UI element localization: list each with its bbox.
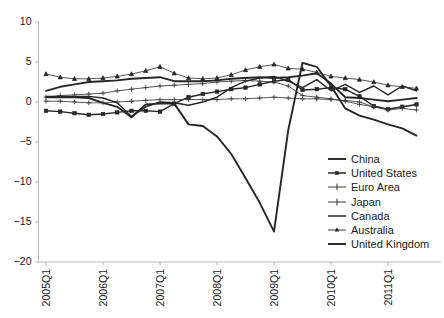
data-point-marker — [257, 96, 262, 101]
y-tick-label: −10 — [14, 175, 32, 187]
x-tick-label: 2010Q1 — [325, 269, 337, 307]
data-point-marker — [115, 88, 120, 93]
data-point-marker — [101, 91, 106, 96]
data-point-marker — [229, 96, 234, 101]
data-point-marker — [244, 86, 247, 89]
data-point-marker — [59, 110, 62, 113]
legend-item-china[interactable]: China — [327, 152, 439, 166]
legend-label: Euro Area — [351, 180, 400, 194]
data-point-marker — [101, 112, 104, 115]
data-point-marker — [343, 98, 348, 103]
x-axis-ticks — [46, 262, 388, 266]
data-point-marker — [158, 97, 163, 102]
data-point-marker — [230, 88, 233, 91]
data-point-marker — [87, 113, 90, 116]
legend-label: Japan — [351, 195, 381, 209]
legend-marker-triangle-icon — [327, 223, 347, 237]
y-axis-ticks: 1050−5−10−15−20 — [14, 15, 39, 267]
data-point-marker — [358, 95, 361, 98]
data-point-marker — [173, 102, 176, 105]
data-point-marker — [116, 111, 119, 114]
legend-marker-line-icon — [327, 152, 347, 166]
data-point-marker — [58, 99, 63, 104]
y-tick-label: −15 — [14, 215, 32, 227]
legend-marker-cross-icon — [327, 180, 347, 194]
data-point-marker — [172, 97, 177, 102]
y-tick-label: 0 — [26, 95, 32, 107]
data-point-marker — [130, 109, 133, 112]
data-point-marker — [243, 96, 248, 101]
data-point-marker — [158, 65, 162, 69]
legend-label: United States — [351, 166, 417, 180]
x-tick-label: 2006Q1 — [97, 269, 109, 307]
data-point-marker — [158, 84, 163, 89]
legend-marker-plus-icon — [327, 195, 347, 209]
data-point-marker — [201, 92, 204, 95]
data-point-marker — [129, 99, 134, 104]
y-tick-label: 5 — [26, 55, 32, 67]
data-point-marker — [287, 78, 290, 81]
data-point-marker — [315, 88, 318, 91]
data-point-marker — [158, 110, 161, 113]
data-point-marker — [143, 85, 148, 90]
legend-label: Canada — [351, 209, 390, 223]
chart-legend: ChinaUnited StatesEuro AreaJapanCanadaAu… — [327, 152, 439, 251]
data-point-marker — [73, 112, 76, 115]
data-point-marker — [44, 99, 49, 104]
legend-label: Australia — [351, 223, 394, 237]
data-point-marker — [329, 86, 332, 89]
chart-container: 1050−5−10−15−20 2005Q12006Q12007Q12008Q1… — [0, 0, 444, 318]
x-tick-label: 2005Q1 — [40, 269, 52, 307]
data-point-marker — [186, 82, 191, 87]
data-point-marker — [172, 83, 177, 88]
legend-item-australia[interactable]: Australia — [327, 223, 439, 237]
data-point-marker — [143, 98, 148, 103]
legend-item-united-kingdom[interactable]: United Kingdom — [327, 237, 439, 251]
data-point-marker — [44, 109, 47, 112]
data-point-marker — [86, 100, 91, 105]
legend-marker-line-icon — [327, 209, 347, 223]
y-tick-label: 10 — [20, 15, 32, 27]
data-point-marker — [286, 96, 291, 101]
data-point-marker — [286, 84, 291, 89]
data-point-marker — [272, 62, 276, 66]
data-point-marker — [272, 95, 277, 100]
y-tick-label: −5 — [20, 135, 32, 147]
data-point-marker — [44, 72, 48, 76]
legend-item-euro-area[interactable]: Euro Area — [327, 180, 439, 194]
data-point-marker — [101, 100, 106, 105]
legend-item-japan[interactable]: Japan — [327, 195, 439, 209]
x-tick-label: 2007Q1 — [154, 269, 166, 307]
data-point-marker — [301, 88, 304, 91]
data-point-marker — [129, 87, 134, 92]
x-tick-label: 2008Q1 — [211, 269, 223, 307]
y-tick-label: −20 — [14, 255, 32, 267]
x-tick-label: 2011Q1 — [382, 269, 394, 306]
data-point-marker — [215, 90, 218, 93]
legend-label: China — [351, 152, 380, 166]
data-point-marker — [414, 108, 419, 113]
data-point-marker — [344, 88, 347, 91]
chart-series-markers — [44, 62, 419, 116]
legend-item-united-states[interactable]: United States — [327, 166, 439, 180]
legend-label: United Kingdom — [351, 237, 429, 251]
x-tick-label: 2009Q1 — [268, 269, 280, 307]
legend-item-canada[interactable]: Canada — [327, 209, 439, 223]
x-axis-tick-labels: 2005Q12006Q12007Q12008Q12009Q12010Q12011… — [40, 269, 394, 307]
legend-marker-line-icon — [327, 237, 347, 251]
legend-marker-square-icon — [327, 166, 347, 180]
data-point-marker — [72, 100, 77, 105]
data-point-marker — [300, 96, 305, 101]
data-point-marker — [329, 97, 334, 102]
data-point-marker — [144, 109, 147, 112]
